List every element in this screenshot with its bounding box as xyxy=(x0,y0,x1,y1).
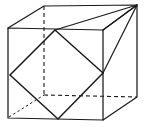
inscribed-square-group xyxy=(10,30,103,119)
cube-front-face-outline xyxy=(8,28,103,120)
cut-connector-group xyxy=(103,5,137,73)
hidden-edges-group xyxy=(9,6,137,117)
cube-visible-edges-group xyxy=(8,5,137,120)
cube-top-face-edges xyxy=(8,5,137,30)
hidden-edge-bottom-left-diagonal xyxy=(9,95,44,117)
cut-edge-right-vertex-to-back-top-right xyxy=(103,5,137,73)
figure-container xyxy=(0,0,145,132)
cube-inscribed-square-diagram xyxy=(0,0,145,132)
top-face-triangle-group xyxy=(55,5,137,30)
top-face-triangle xyxy=(55,5,137,30)
inscribed-square xyxy=(10,30,103,119)
hidden-edge-back-bottom-horizontal xyxy=(44,95,137,97)
